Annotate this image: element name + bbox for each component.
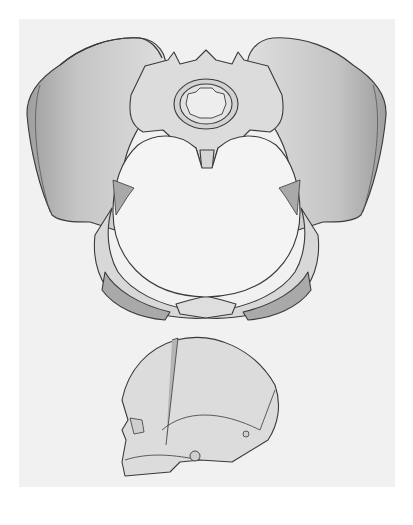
pelvis	[27, 38, 386, 320]
anatomy-illustration	[0, 0, 413, 525]
fetal-skull	[122, 337, 279, 476]
pubic-symphysis	[176, 296, 236, 318]
